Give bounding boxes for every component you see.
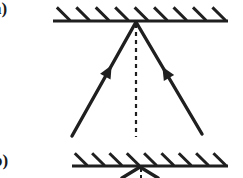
surface-hatch-marks-a <box>57 7 226 20</box>
hatch-mark <box>193 7 206 20</box>
surface-hatch-marks-b <box>75 153 226 165</box>
hatch-mark <box>174 7 187 20</box>
ray-diagram-canvas <box>0 0 243 178</box>
hatch-mark <box>96 7 109 20</box>
ray-right-clipped-b <box>140 167 158 178</box>
panel-label-b: b) <box>0 152 8 169</box>
incident-ray-left-a <box>72 22 136 136</box>
hatch-mark <box>75 153 87 165</box>
hatch-mark <box>212 7 225 20</box>
panel-a-group <box>53 7 228 137</box>
hatch-mark <box>213 153 225 165</box>
hatch-mark <box>92 153 104 165</box>
hatch-mark <box>161 153 173 165</box>
hatch-mark <box>109 153 121 165</box>
figure-container: a) b) <box>0 0 243 178</box>
panel-label-a: a) <box>0 0 7 17</box>
panel-b-group <box>72 153 228 178</box>
hatch-mark <box>154 7 167 20</box>
hatch-mark <box>179 153 191 165</box>
hatch-mark <box>127 153 139 165</box>
hatch-mark <box>57 7 70 20</box>
hatch-mark <box>144 153 156 165</box>
hatch-mark <box>135 7 148 20</box>
hatch-mark <box>196 153 208 165</box>
ray-left-clipped-b <box>122 167 140 178</box>
hatch-mark <box>76 7 89 20</box>
hatch-mark <box>115 7 128 20</box>
